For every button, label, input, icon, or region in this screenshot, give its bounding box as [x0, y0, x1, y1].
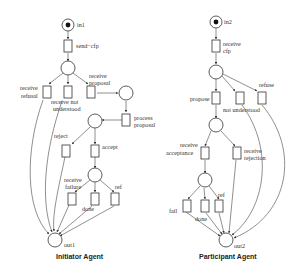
transition-done [201, 200, 209, 212]
label-send-cfp: send−cfp [76, 42, 99, 49]
label-propose: propose [190, 95, 210, 102]
label-receive-rejection-2: rejection [244, 154, 266, 161]
transition-ref [111, 193, 119, 205]
initiator-title: Initiator Agent [56, 253, 104, 261]
participant-title: Participant Agent [199, 253, 257, 261]
label-out1: out1 [64, 241, 75, 248]
label-receive-not-understood-1: receive not [51, 98, 79, 105]
label-out2: out2 [234, 242, 245, 249]
transition-fail [183, 200, 191, 212]
transition-receive-not-understood [64, 86, 72, 98]
transition-receive-refusal [43, 86, 51, 98]
label-receive-failure-1: receive [64, 176, 82, 183]
label-ref: ref [218, 191, 226, 198]
label-receive-not-understood-2: understood [53, 105, 81, 112]
place-out1 [48, 233, 62, 247]
label-process-proposal-1: process [134, 114, 153, 121]
token [214, 20, 219, 25]
label-fail: fail [169, 207, 178, 214]
transition-receive-proposal [87, 86, 95, 98]
label-refuse: refuse [259, 81, 274, 88]
label-done: done [82, 205, 94, 212]
label-receive-proposal-2: proposal [89, 79, 111, 86]
transition-propose [212, 92, 220, 104]
place-cfp-received [209, 65, 223, 79]
place-after-cfp [61, 61, 75, 75]
transition-receive-failure [68, 193, 76, 205]
label-receive-rejection-1: receive [244, 147, 262, 154]
initiator-net: in1 send−cfp receive refusal receive not… [20, 19, 156, 261]
label-receive-cfp-2: cfp [223, 47, 231, 54]
label-receive-refusal-1: receive [20, 84, 38, 91]
transition-process-proposal [122, 114, 130, 126]
label-reject: reject [54, 132, 68, 139]
label-ref: ref [115, 183, 123, 190]
place-out2 [219, 233, 233, 247]
label-receive-proposal-1: receive [89, 72, 107, 79]
transition-receive-cfp [212, 40, 220, 52]
place-proposal-received [119, 86, 133, 100]
label-not-understood: not understood [223, 106, 261, 113]
place-accepted [198, 173, 212, 187]
transition-refuse [258, 92, 266, 104]
transition-reject [62, 145, 70, 157]
transition-receive-acceptance [201, 147, 209, 159]
transition-not-understood [236, 92, 244, 104]
transition-receive-rejection [233, 147, 241, 159]
label-process-proposal-2: proposal [134, 121, 156, 128]
label-receive-acceptance-2: acceptance [166, 149, 193, 156]
label-receive-acceptance-1: receive [180, 141, 198, 148]
label-in2: in2 [224, 18, 232, 25]
transition-done [91, 193, 99, 205]
label-accept: accept [102, 143, 118, 150]
transition-ref [215, 200, 223, 212]
participant-net: in2 receive cfp propose not understood r… [166, 16, 285, 261]
transition-send-cfp [64, 40, 72, 52]
label-receive-refusal-2: refusal [21, 92, 38, 99]
label-done: done [195, 215, 207, 222]
place-proposal-processed [88, 114, 102, 128]
place-proposed [209, 118, 223, 132]
petri-net-diagram: in1 send−cfp receive refusal receive not… [0, 0, 301, 275]
transition-accept [91, 145, 99, 157]
label-in1: in1 [77, 21, 85, 28]
place-accepted [88, 168, 102, 182]
token [66, 23, 71, 28]
label-receive-cfp-1: receive [223, 40, 241, 47]
label-receive-failure-2: failure [65, 183, 81, 190]
